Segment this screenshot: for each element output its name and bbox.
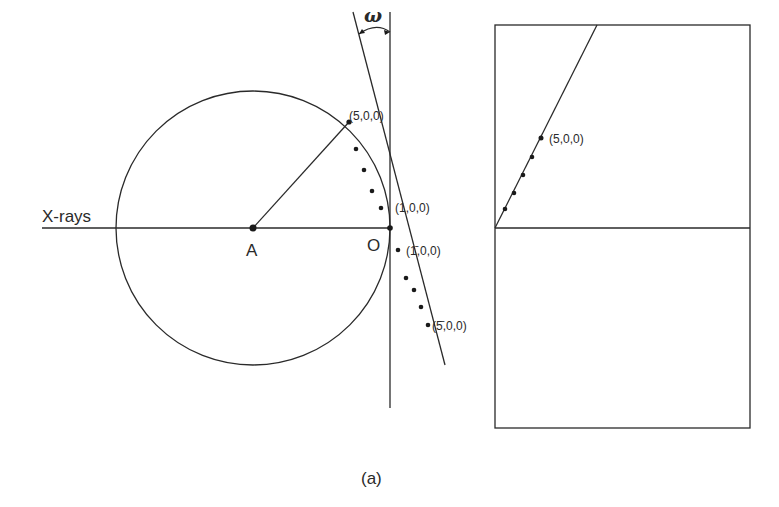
projected-point-5	[539, 136, 544, 141]
lattice-point-neg2	[404, 276, 409, 281]
reciprocal-lattice-row	[353, 12, 445, 365]
projected-lattice-row	[495, 25, 597, 228]
xrays-label: X-rays	[42, 207, 91, 226]
omega-label: ω	[364, 4, 382, 26]
ewald-sphere-diagram: X-rays A O ω (5,0,0) (1,0,0) (1̄,0,0) (5…	[0, 0, 779, 507]
projected-point-label-5-0-0: (5,0,0)	[549, 132, 584, 146]
lattice-point-3	[362, 168, 367, 173]
lattice-point-neg1	[396, 248, 401, 253]
radius-line	[253, 122, 349, 228]
center-a-dot	[250, 225, 257, 232]
right-panel: (5,0,0)	[495, 25, 750, 428]
point-label-neg5-0-0: (5̄,0,0)	[432, 319, 467, 333]
projected-point-2	[512, 191, 517, 196]
lattice-point-neg4	[419, 305, 424, 310]
center-a-label: A	[246, 241, 258, 260]
detector-frame	[495, 25, 750, 428]
lattice-point-neg3	[412, 288, 417, 293]
lattice-point-4	[354, 147, 359, 152]
origin-point	[387, 225, 393, 231]
lattice-point-1	[379, 206, 384, 211]
projected-point-1	[503, 207, 508, 212]
point-label-5-0-0: (5,0,0)	[349, 109, 384, 123]
figure-caption: (a)	[361, 469, 382, 488]
point-label-neg1-0-0: (1̄,0,0)	[406, 244, 441, 258]
origin-o-label: O	[367, 236, 380, 255]
projected-point-4	[530, 155, 535, 160]
left-panel: X-rays A O ω (5,0,0) (1,0,0) (1̄,0,0) (5…	[42, 4, 467, 408]
projected-point-3	[521, 173, 526, 178]
lattice-point-2	[370, 189, 375, 194]
point-label-1-0-0: (1,0,0)	[395, 201, 430, 215]
lattice-point-neg5	[426, 323, 431, 328]
